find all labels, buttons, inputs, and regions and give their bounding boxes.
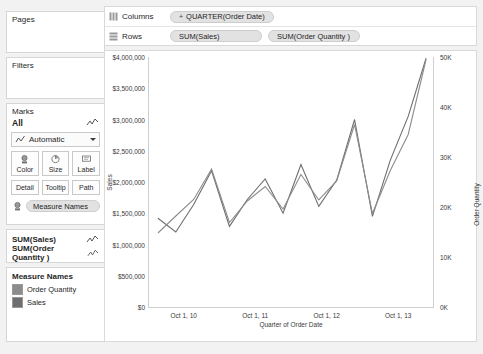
y-axis-right: 0K10K20K30K40K50K [436, 57, 462, 307]
mark-type-dropdown[interactable]: Automatic [11, 132, 100, 147]
columns-pill-label: QUARTER(Order Date) [186, 12, 265, 21]
y-axis-right-tick: 40K [440, 104, 452, 111]
rows-shelf-label: Rows [122, 32, 170, 41]
y-axis-left-tick: $2,500,000 [112, 147, 145, 154]
marks-all-row[interactable]: All [7, 116, 104, 129]
line-chart-svg [149, 57, 435, 307]
color-button[interactable]: Color [11, 151, 39, 176]
legend-swatch [12, 284, 23, 295]
color-icon [19, 154, 30, 165]
pages-title: Pages [7, 12, 104, 24]
chevron-down-icon [90, 138, 96, 141]
detail-button-label: Detail [16, 184, 34, 191]
measure-values-card: SUM(Sales) SUM(Order Quantity ) [6, 229, 105, 263]
y-axis-left-tick: $1,500,000 [112, 210, 145, 217]
expand-plus-icon[interactable]: + [179, 13, 183, 20]
rows-icon [109, 32, 118, 41]
legend-item-label: Order Quantity [27, 285, 76, 294]
line-chart-icon [87, 249, 99, 258]
label-icon [81, 154, 92, 165]
y-axis-left-tick: $500,000 [118, 272, 145, 279]
line-chart-icon [86, 235, 99, 244]
marks-title: Marks [7, 104, 104, 116]
marks-card: Marks All Automatic [6, 103, 105, 225]
plot-area[interactable] [148, 57, 434, 307]
size-icon [50, 154, 61, 165]
measure-names-pill-label: Measure Names [33, 202, 88, 211]
size-button[interactable]: Size [42, 151, 70, 176]
y-axis-left-tick: $4,000,000 [112, 54, 145, 61]
path-button[interactable]: Path [72, 180, 100, 195]
measure-names-pill[interactable]: Measure Names [26, 200, 100, 212]
rows-pill-label: SUM(Sales) [179, 32, 219, 41]
marks-buttons-row-1: Color Size Label [11, 151, 100, 176]
y-axis-left-tick: $1,000,000 [112, 241, 145, 248]
path-button-label: Path [79, 184, 93, 191]
x-axis-tick: Oct 1, 10 [171, 312, 197, 319]
legend-item-order-quantity[interactable]: Order Quantity [7, 283, 104, 296]
y-axis-right-tick: 50K [440, 54, 452, 61]
filters-title: Filters [7, 58, 104, 70]
marks-all-label: All [12, 118, 23, 128]
color-button-label: Color [16, 166, 33, 173]
rows-shelf[interactable]: Rows SUM(Sales) SUM(Order Quantity ) [105, 26, 476, 45]
series-line-sales [158, 58, 426, 232]
y-axis-right-tick: 0K [440, 304, 448, 311]
columns-icon [109, 12, 118, 21]
columns-shelf-label: Columns [122, 12, 170, 21]
legend-swatch [12, 297, 23, 308]
marks-buttons-row-2: Detail Tooltip Path [11, 180, 100, 195]
color-icon [12, 201, 23, 212]
tableau-worksheet-window: Pages Filters Marks All Automatic [0, 0, 483, 354]
y-axis-right-tick: 20K [440, 204, 452, 211]
marks-measure-names-row: Measure Names [12, 200, 100, 212]
pages-shelf-card[interactable]: Pages [6, 11, 105, 53]
y-axis-left-tick: $0 [138, 304, 145, 311]
y-axis-right-tick: 10K [440, 254, 452, 261]
y-axis-left-tick: $2,000,000 [112, 179, 145, 186]
legend-item-sales[interactable]: Sales [7, 296, 104, 309]
rows-pill-sum-order-quantity[interactable]: SUM(Order Quantity ) [268, 30, 360, 42]
rows-pill-sum-sales[interactable]: SUM(Sales) [170, 30, 262, 42]
measure-label: SUM(Order Quantity ) [12, 244, 87, 262]
x-axis-tick: Oct 1, 11 [242, 312, 268, 319]
tooltip-button[interactable]: Tooltip [42, 180, 70, 195]
rows-pill-label: SUM(Order Quantity ) [277, 32, 350, 41]
legend-item-label: Sales [27, 298, 46, 307]
detail-button[interactable]: Detail [11, 180, 39, 195]
y-axis-right-tick: 30K [440, 154, 452, 161]
y-axis-left-tick: $3,000,000 [112, 116, 145, 123]
x-axis-title: Quarter of Order Date [148, 321, 434, 328]
legend-title: Measure Names [7, 268, 104, 283]
line-mark-icon [15, 134, 26, 145]
columns-pill-quarter-order-date[interactable]: + QUARTER(Order Date) [170, 11, 274, 23]
measure-row-order-quantity[interactable]: SUM(Order Quantity ) [7, 246, 104, 260]
filters-shelf-card[interactable]: Filters [6, 57, 105, 99]
left-sidebar: Pages Filters Marks All Automatic [6, 6, 105, 342]
y-axis-left-title: Sales [106, 174, 113, 190]
label-button-label: Label [78, 166, 95, 173]
x-axis-tick: Oct 1, 12 [314, 312, 340, 319]
series-line-order-quantity [158, 60, 426, 234]
mark-type-label: Automatic [29, 135, 90, 144]
x-axis: Oct 1, 10Oct 1, 11Oct 1, 12Oct 1, 13 [148, 307, 434, 320]
label-button[interactable]: Label [72, 151, 100, 176]
columns-shelf[interactable]: Columns + QUARTER(Order Date) [105, 7, 476, 26]
tooltip-button-label: Tooltip [45, 184, 65, 191]
x-axis-tick: Oct 1, 13 [385, 312, 411, 319]
y-axis-right-title: Order Quantity [473, 183, 480, 226]
measure-label: SUM(Sales) [12, 235, 56, 244]
measure-names-legend: Measure Names Order Quantity Sales [6, 267, 105, 342]
line-chart-icon [86, 118, 99, 127]
size-button-label: Size [49, 166, 63, 173]
y-axis-left-tick: $3,500,000 [112, 85, 145, 92]
chart-panel: $0$500,000$1,000,000$1,500,000$2,000,000… [104, 50, 477, 342]
shelves-panel: Columns + QUARTER(Order Date) Rows SUM(S… [104, 6, 477, 46]
